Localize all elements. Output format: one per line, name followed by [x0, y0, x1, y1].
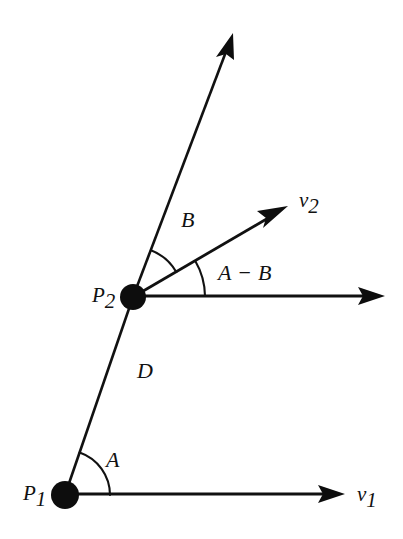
label-a-minus-b-left: A [216, 260, 232, 285]
arc-angle-b [151, 250, 176, 272]
label-angle-a-minus-b: A−B [216, 260, 271, 285]
node-p1 [51, 481, 79, 509]
label-v2: v2 [299, 188, 319, 218]
label-v2-subscript: 2 [308, 194, 319, 218]
vector-angle-diagram: P1 P2 v1 v2 D A B A−B [0, 0, 403, 539]
label-p2: P2 [91, 283, 116, 313]
diagram-canvas: P1 P2 v1 v2 D A B A−B [0, 0, 403, 539]
label-a-minus-b-right: B [258, 260, 271, 285]
label-p1-base: P [22, 481, 36, 505]
label-a-minus-b-operator: − [238, 260, 250, 285]
label-p1: P1 [22, 481, 46, 511]
label-angle-a: A [104, 447, 120, 472]
label-p1-subscript: 1 [36, 487, 47, 511]
arrowhead-v2 [257, 206, 288, 228]
label-p2-subscript: 2 [105, 289, 116, 313]
label-v1: v1 [357, 482, 377, 512]
label-p2-base: P [91, 283, 105, 307]
ray-up-continuation [133, 49, 227, 297]
arc-angle-a-minus-b [195, 261, 205, 296]
label-v1-subscript: 1 [366, 488, 377, 512]
label-angle-b: B [181, 207, 194, 232]
node-p2 [120, 284, 146, 310]
label-segment-d: D [136, 358, 153, 383]
